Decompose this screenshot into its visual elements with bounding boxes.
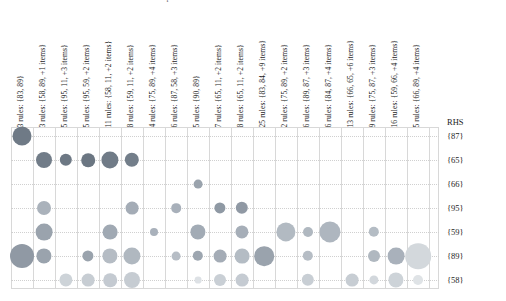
bubble-3-1[interactable]: [81, 153, 95, 167]
column-header-14: 6 rules: {84, 87, +4 items}: [326, 44, 334, 128]
chart-title: Grouped Matrix for 128 Rules: [150, 0, 247, 2]
column-header-16: 9 rules: {75, 87, +3 items}: [370, 44, 378, 128]
bubble-4-6[interactable]: [103, 273, 117, 287]
column-header-5: 8 rules: {59, 11, +2 items}: [128, 45, 136, 128]
column-header-7: 6 rules: {87, 58, +3 items}: [172, 44, 180, 128]
column-header-11: 25 rules: {83, 84, +9 items}: [260, 40, 268, 128]
bubble-15-6[interactable]: [346, 274, 359, 287]
rhs-row-label-5: {89}: [447, 251, 464, 261]
bubble-5-6[interactable]: [124, 272, 140, 288]
rhs-row-label-2: {66}: [447, 179, 464, 189]
rhs-row-label-1: {65}: [447, 155, 464, 165]
column-header-4: 11 rules: {58, 11, +2 items}: [106, 41, 114, 128]
bubble-9-6[interactable]: [214, 274, 226, 286]
bubble-1-1[interactable]: [36, 152, 52, 168]
bubble-18-6[interactable]: [413, 275, 423, 285]
bubble-5-3[interactable]: [126, 202, 139, 215]
column-header-8: 5 rules: {90, 89}: [194, 76, 202, 128]
column-header-10: 8 rules: {65, 11, +2 items}: [238, 45, 246, 128]
bubble-0-5[interactable]: [10, 244, 34, 268]
bubble-0-0[interactable]: [13, 127, 32, 146]
column-header-13: 6 rules: {89, 87, +3 items}: [304, 44, 312, 128]
gridline-horizontal-0: [11, 136, 439, 137]
bubble-9-5[interactable]: [214, 250, 227, 263]
rhs-axis-title: RHS: [447, 117, 464, 127]
column-header-17: 16 rules: {59, 66, +4 items}: [392, 40, 400, 128]
bubble-chart-root: Grouped Matrix for 128 Rules 3 rules: {8…: [0, 0, 506, 301]
bubble-1-4[interactable]: [36, 224, 53, 241]
column-header-15: 13 rules: {66, 65, +6 items}: [348, 40, 356, 128]
column-header-12: 2 rules: {75, 89, +2 items}: [282, 44, 290, 128]
column-header-2: 5 rules: {95, 11, +3 items}: [62, 45, 70, 128]
rhs-row-label-3: {95}: [447, 203, 464, 213]
bubble-7-3[interactable]: [171, 203, 181, 213]
column-header-18: 5 rules: {66, 89, +4 items}: [414, 44, 422, 128]
column-header-6: 4 rules: {75, 89, +4 items}: [150, 44, 158, 128]
column-header-9: 7 rules: {65, 11, +2 items}: [216, 45, 224, 128]
gridline-horizontal-1: [11, 160, 439, 161]
rhs-row-label-0: {87}: [447, 131, 464, 141]
bubble-8-6[interactable]: [195, 277, 202, 284]
bubble-3-6[interactable]: [82, 274, 95, 287]
bubble-17-5[interactable]: [388, 248, 405, 265]
rhs-row-label-4: {59}: [447, 227, 464, 237]
bubble-7-5[interactable]: [172, 252, 181, 261]
bubble-10-5[interactable]: [235, 249, 250, 264]
gridline-horizontal-2: [11, 184, 439, 185]
bubble-1-3[interactable]: [37, 201, 51, 215]
bubble-4-4[interactable]: [103, 225, 118, 240]
bubble-10-6[interactable]: [236, 274, 249, 287]
bubble-18-5[interactable]: [405, 243, 431, 269]
column-headers: 3 rules: {83, 89}3 rules: {58, 89, +1 it…: [0, 8, 506, 128]
bubble-11-5[interactable]: [254, 246, 274, 266]
rhs-row-label-6: {58}: [447, 275, 464, 285]
bubble-16-5[interactable]: [368, 250, 380, 262]
bubble-6-4[interactable]: [150, 228, 158, 236]
bubble-13-4[interactable]: [303, 227, 313, 237]
column-header-0: 3 rules: {83, 89}: [18, 76, 26, 128]
column-header-1: 3 rules: {58, 89, +1 items}: [40, 44, 48, 128]
column-header-3: 5 rules: {95, 59, +2 items}: [84, 44, 92, 128]
bubble-8-2[interactable]: [194, 180, 203, 189]
